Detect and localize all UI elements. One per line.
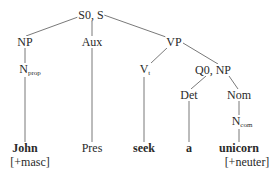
node-q0-np: Q0, NP: [194, 64, 232, 76]
n-com-subscript: com: [240, 121, 252, 129]
node-n-prop: Nprop: [18, 63, 42, 77]
leaf-john: John: [11, 142, 38, 154]
node-np-subject: NP: [16, 36, 33, 48]
node-det: Det: [179, 89, 198, 101]
leaf-seek: seek: [132, 142, 156, 154]
n-com-base: N: [232, 114, 241, 128]
leaf-pres: Pres: [81, 142, 104, 154]
feature-neuter: [+neuter]: [225, 156, 270, 168]
leaf-unicorn: unicorn: [218, 142, 260, 154]
node-aux: Aux: [81, 36, 104, 48]
node-s0-s: S0, S: [77, 9, 104, 21]
n-prop-subscript: prop: [28, 69, 41, 77]
feature-masc: [+masc]: [10, 156, 49, 168]
v-t-subscript: t: [148, 69, 150, 77]
leaf-a: a: [185, 142, 193, 154]
n-prop-base: N: [19, 62, 28, 76]
node-vp: VP: [165, 36, 182, 48]
node-v-t: Vt: [139, 63, 152, 77]
node-n-com: Ncom: [231, 115, 254, 129]
node-nom: Nom: [226, 89, 252, 101]
v-t-base: V: [140, 62, 149, 76]
